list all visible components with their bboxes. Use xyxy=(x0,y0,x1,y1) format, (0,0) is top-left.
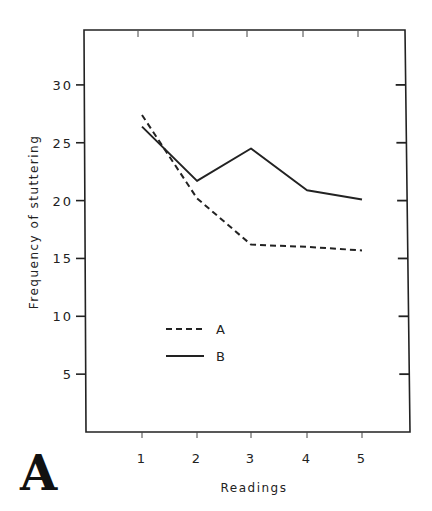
legend-label-a: A xyxy=(216,322,225,337)
panel-label: A xyxy=(19,445,58,501)
y-tick-label: 30 xyxy=(52,78,73,93)
legend-label-b: B xyxy=(216,349,225,364)
y-tick-label: 5 xyxy=(63,367,73,382)
x-axis-top-ticks xyxy=(138,31,358,37)
chart-canvas: 51015202530 12345 A B Readings Frequency… xyxy=(0,0,432,511)
y-axis-ticks: 51015202530 xyxy=(52,78,85,382)
x-axis-ticks: 12345 xyxy=(137,432,367,466)
x-axis-title: Readings xyxy=(221,481,288,495)
x-tick-label: 2 xyxy=(192,451,202,466)
y-tick-label: 10 xyxy=(52,309,73,324)
x-tick-label: 5 xyxy=(357,451,367,466)
y-tick-label: 15 xyxy=(52,251,73,266)
x-tick-label: 4 xyxy=(302,451,312,466)
data-series xyxy=(142,115,362,250)
y-axis-title: Frequency of stuttering xyxy=(27,135,41,310)
y-tick-label: 20 xyxy=(52,194,73,209)
x-tick-label: 1 xyxy=(137,451,147,466)
legend: A B xyxy=(166,322,225,364)
y-tick-label: 25 xyxy=(52,136,73,151)
series-line-a xyxy=(142,115,362,250)
plot-frame xyxy=(84,30,410,432)
x-tick-label: 3 xyxy=(246,451,256,466)
series-line-b xyxy=(142,127,362,200)
line-chart-figure: 51015202530 12345 A B Readings Frequency… xyxy=(0,0,432,511)
